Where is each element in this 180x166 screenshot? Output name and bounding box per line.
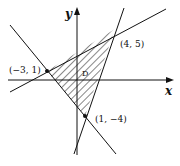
vertex-label-4-5: (4, 5) [120,39,144,49]
region-label: D [82,69,88,78]
x-axis-label: x [164,84,173,98]
vertex-point-1-neg4 [83,114,87,118]
x-axis-arrow-icon [166,77,174,83]
vertex-label-1-neg4: (1, −4) [95,114,127,124]
y-axis-arrow-icon [74,7,80,15]
triangle-region-diagram: y x (4, 5) (−3, 1) (1, −4) D [0,0,180,166]
vertex-label-neg3-1: (−3, 1) [9,65,41,75]
vertex-point-neg3-1 [45,69,49,73]
y-axis-label: y [64,7,73,21]
